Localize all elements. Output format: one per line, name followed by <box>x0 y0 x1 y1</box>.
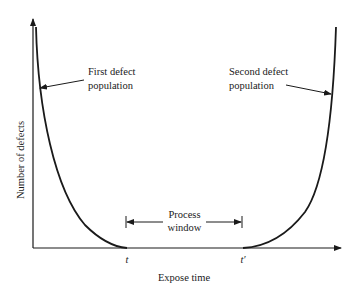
process-window-label: Process window <box>168 209 202 233</box>
process-window-label-line2: window <box>168 222 202 233</box>
tick-label-t: t <box>126 254 130 265</box>
second-defect-label-line1: Second defect <box>229 66 288 77</box>
first-defect-label-line2: population <box>88 80 134 91</box>
first-defect-label: First defect population <box>88 66 136 91</box>
process-window-label-line1: Process <box>168 209 200 220</box>
y-axis-label: Number of defects <box>15 121 26 199</box>
second-defect-pointer-arrow <box>286 85 331 94</box>
first-defect-pointer-arrow <box>40 80 84 88</box>
first-defect-curve <box>36 27 127 248</box>
second-defect-label-line2: population <box>229 80 275 91</box>
second-defect-curve <box>243 27 336 248</box>
tick-label-t-prime: t′ <box>240 254 246 265</box>
process-window-diagram: First defect population Second defect po… <box>0 0 358 292</box>
first-defect-label-line1: First defect <box>88 66 136 77</box>
x-axis-label: Expose time <box>158 272 211 283</box>
second-defect-label: Second defect population <box>229 66 288 91</box>
